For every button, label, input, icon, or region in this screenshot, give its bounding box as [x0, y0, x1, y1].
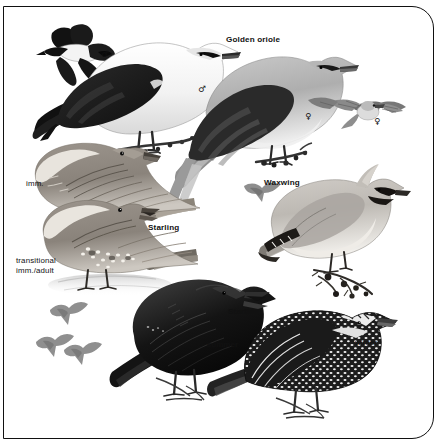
male-symbol-icon-flight-oriole: ♂ — [101, 50, 109, 59]
label-golden-oriole: Golden oriole — [226, 35, 280, 45]
label-winter: winter — [355, 338, 377, 348]
label-imm: imm. — [26, 179, 44, 189]
label-waxwing: Waxwing — [264, 178, 300, 188]
illustration-plate: Golden oriole Waxwing Starling Starling … — [0, 0, 439, 445]
male-symbol-icon-perched-oriole: ♂ — [198, 85, 206, 94]
label-starling-middle: Starling — [148, 223, 179, 233]
label-transitional-line2: imm./adult — [16, 266, 54, 276]
female-symbol-icon-perched-oriole: ♀ — [305, 112, 311, 121]
figure-starling-transitional — [43, 200, 198, 296]
female-symbol-icon-flight-oriole: ♀ — [374, 117, 380, 126]
label-male-summer: ♂ summer — [197, 339, 238, 349]
label-transitional-line1: transitional — [16, 256, 56, 266]
artwork-canvas — [0, 0, 439, 445]
label-starling-bottom: Starling — [228, 307, 259, 317]
bird-artwork-svg — [0, 0, 439, 445]
figure-starling-flight-silhouettes — [36, 302, 102, 365]
male-symbol-icon: ♂ — [197, 339, 205, 349]
label-summer-text: summer — [207, 340, 239, 349]
